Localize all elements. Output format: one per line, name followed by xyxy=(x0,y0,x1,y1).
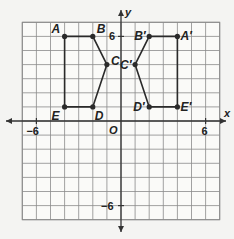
vertex-label: D′ xyxy=(133,100,146,114)
x-axis-arrow-left-icon xyxy=(6,118,12,124)
vertex-point xyxy=(175,104,180,109)
x-axis-label: x xyxy=(223,107,231,119)
vertex-label: A xyxy=(51,22,61,36)
vertex-label: B′ xyxy=(134,29,147,43)
vertex-label: E xyxy=(52,109,61,123)
vertex-point xyxy=(175,34,180,39)
vertex-point xyxy=(62,34,67,39)
vertex-point xyxy=(147,104,152,109)
vertex-point xyxy=(147,34,152,39)
vertex-label: C xyxy=(111,54,120,68)
vertex-point xyxy=(104,62,109,67)
vertex-label: D xyxy=(95,109,104,123)
x-tick-label: −6 xyxy=(26,125,39,137)
vertex-label: C′ xyxy=(120,58,133,72)
y-axis-arrow-up-icon xyxy=(118,10,124,16)
x-tick-label: 6 xyxy=(202,125,208,137)
vertex-label: B xyxy=(97,22,106,36)
y-axis-arrow-down-icon xyxy=(118,226,124,232)
origin-label: O xyxy=(109,124,118,136)
vertex-point xyxy=(62,104,67,109)
coordinate-plane: xyO−666−6ABCDEA′B′C′D′E′ xyxy=(0,0,234,239)
vertex-point xyxy=(90,34,95,39)
vertex-label: E′ xyxy=(180,100,192,114)
y-tick-label: 6 xyxy=(109,30,115,42)
y-axis-label: y xyxy=(124,6,132,18)
y-tick-label: −6 xyxy=(101,200,114,212)
vertex-point xyxy=(133,62,138,67)
coordinate-plane-svg: xyO−666−6ABCDEA′B′C′D′E′ xyxy=(0,0,234,239)
vertex-label: A′ xyxy=(179,29,193,43)
